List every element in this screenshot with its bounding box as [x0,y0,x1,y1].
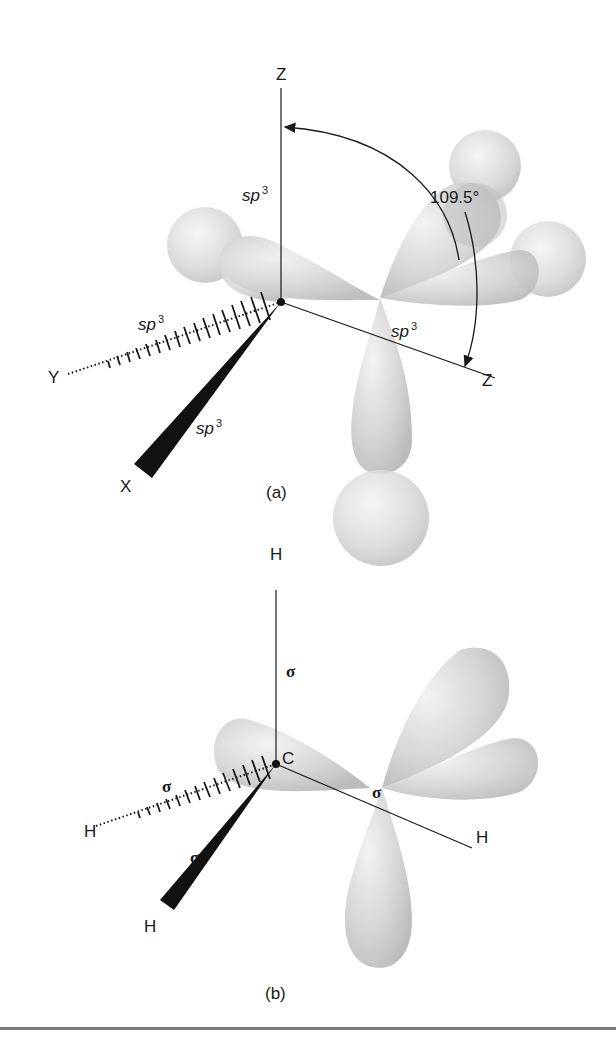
atom-h-left: H [84,823,96,840]
sp3-superscript: 3 [158,313,164,325]
bond-angle-label: 109.5° [430,189,479,206]
atom-h-bottom-left: H [144,918,156,935]
sp3-hybridization-figure: Z sp3 109.5° sp3 sp3 Y Z sp3 X (a) H σ C… [0,0,616,1038]
sp3-label-left: sp3 [138,316,164,333]
panel-a-lobes [167,130,586,566]
atom-c-center: C [282,750,294,767]
sp3-superscript: 3 [216,417,222,429]
z-axis-right-label: Z [482,372,492,389]
y-axis-hash-marks [108,292,270,368]
sigma-bond-wedge: σ [190,849,199,866]
panel-a-caption: (a) [266,484,287,501]
atom-h-top: H [270,546,282,563]
y-axis-label: Y [48,369,59,386]
sigma-bond-right: σ [372,784,381,801]
sp3-superscript: 3 [411,320,417,332]
sp3-superscript: 3 [262,184,268,196]
panel-b-caption: (b) [265,985,286,1002]
sp3-label-left-text: sp [138,315,156,334]
sp3-label-wedge: sp3 [196,420,222,437]
z-axis-top-label: Z [276,66,286,83]
sp3-label-wedge-text: sp [196,419,214,438]
sp3-label-top: sp3 [242,187,268,204]
sp3-label-right: sp3 [391,323,417,340]
sp3-label-right-text: sp [391,322,409,341]
panel-b-lobes [214,647,538,968]
sp3-label-top-text: sp [242,186,260,205]
atom-h-right: H [476,829,488,846]
sigma-bond-top: σ [286,663,295,680]
x-axis-label: X [120,478,131,495]
sigma-bond-left: σ [162,778,171,795]
bottom-rule [0,1027,616,1030]
orbital-diagram-drawing [0,0,616,1038]
